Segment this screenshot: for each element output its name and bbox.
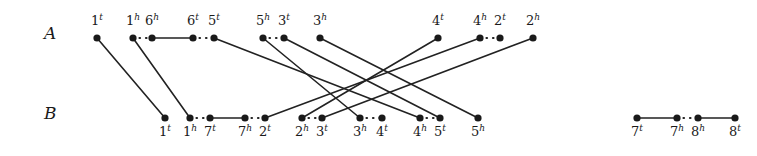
node-label-superscript: h [246,123,252,133]
node-B-7h[interactable] [241,114,248,121]
node-B-1h[interactable] [186,114,193,121]
node-A-3t[interactable] [280,34,287,41]
edge-cross-A-2h-B-3t [322,38,533,118]
node-label-superscript: h [321,12,327,22]
node-label-superscript: t [267,123,271,133]
node-A-2t[interactable] [496,34,503,41]
edge-cross-A-4h-B-2t [265,38,480,118]
node-label-superscript: h [134,12,140,22]
edge-cross-A-1t-B-1t [97,38,165,118]
node-label-superscript: t [384,123,388,133]
node-B-8h[interactable] [694,114,701,121]
node-A-3h[interactable] [316,34,323,41]
node-label-superscript: h [153,12,159,22]
node-label-superscript: h [699,123,705,133]
node-label-superscript: t [216,12,220,22]
node-label-superscript: h [534,12,540,22]
node-B-2t[interactable] [261,114,268,121]
node-label-superscript: h [481,12,487,22]
node-label-A-6h: 6h [145,14,159,27]
node-label-superscript: h [264,12,270,22]
node-label-B-5t: 5t [434,125,446,138]
edge-cross-A-3h-B-5h [320,38,478,118]
node-label-A-2t: 2t [494,14,506,27]
node-label-superscript: t [639,123,643,133]
node-label-A-2h: 2h [526,14,540,27]
node-B-1t[interactable] [161,114,168,121]
node-label-superscript: h [421,123,427,133]
node-A-2h[interactable] [529,34,536,41]
node-label-A-1t: 1t [91,14,103,27]
node-label-B-2h: 2h [295,125,309,138]
node-A-4h[interactable] [476,34,483,41]
node-label-B-2t: 2t [259,125,271,138]
node-label-superscript: t [167,123,171,133]
node-B-7t2[interactable] [633,114,640,121]
node-label-A-6t: 6t [187,14,199,27]
node-A-6h[interactable] [148,34,155,41]
node-label-superscript: h [678,123,684,133]
node-B-3h[interactable] [356,114,363,121]
node-A-6t[interactable] [189,34,196,41]
node-label-superscript: t [440,12,444,22]
node-B-4h[interactable] [416,114,423,121]
node-B-5h[interactable] [474,114,481,121]
node-label-A-1h: 1h [126,14,140,27]
node-label-superscript: h [361,123,367,133]
node-label-B-1h: 1h [183,125,197,138]
node-label-B-4h: 4h [413,125,427,138]
node-label-superscript: t [286,12,290,22]
edge-cross-A-5t-B-4h [214,38,420,118]
node-label-superscript: t [195,12,199,22]
node-A-4t[interactable] [434,34,441,41]
node-label-superscript: h [303,123,309,133]
node-label-A-4h: 4h [473,14,487,27]
node-label-B-5h: 5h [471,125,485,138]
node-label-A-3h: 3h [313,14,327,27]
node-B-5t[interactable] [436,114,443,121]
node-label-B-8h: 8h [691,125,705,138]
node-B-4t[interactable] [378,114,385,121]
node-label-superscript: t [442,123,446,133]
node-label-A-5t: 5t [208,14,220,27]
node-label-B-3h: 3h [353,125,367,138]
node-B-2h[interactable] [298,114,305,121]
node-label-B-7t2: 7t [631,125,643,138]
node-A-5h[interactable] [259,34,266,41]
node-label-B-1t: 1t [159,125,171,138]
node-B-7h2[interactable] [673,114,680,121]
node-label-superscript: t [502,12,506,22]
node-label-superscript: h [191,123,197,133]
node-label-B-4t: 4t [376,125,388,138]
node-label-superscript: t [212,123,216,133]
node-label-B-8t: 8t [729,125,741,138]
node-label-superscript: h [479,123,485,133]
node-A-1h[interactable] [129,34,136,41]
node-label-A-3t: 3t [278,14,290,27]
node-B-7t[interactable] [206,114,213,121]
node-label-B-7t: 7t [204,125,216,138]
node-label-B-3t: 3t [316,125,328,138]
node-label-superscript: t [99,12,103,22]
node-label-superscript: t [737,123,741,133]
node-label-B-7h2: 7h [670,125,684,138]
node-label-superscript: t [324,123,328,133]
node-B-3t[interactable] [318,114,325,121]
node-B-8t[interactable] [731,114,738,121]
node-A-1t[interactable] [93,34,100,41]
node-label-A-4t: 4t [432,14,444,27]
edge-cross-A-1h-B-1h [133,38,190,118]
node-A-5t[interactable] [210,34,217,41]
bipartite-matching-diagram: A B 1t1h6h6t5t5h3t3h4t4h2t2h1t1h7t7h2t2h… [0,0,757,156]
node-label-A-5h: 5h [256,14,270,27]
node-label-B-7h: 7h [238,125,252,138]
